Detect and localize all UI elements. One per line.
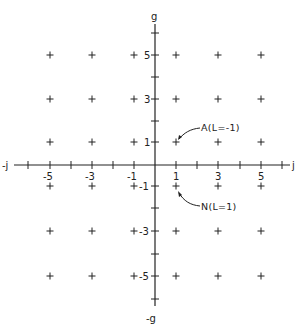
g-tick-label: -3 xyxy=(139,226,149,237)
lattice-point-plus-icon xyxy=(258,52,265,59)
lattice-point-plus-icon xyxy=(47,183,54,190)
lattice-point-plus-icon xyxy=(173,273,180,280)
lattice-point-plus-icon xyxy=(258,273,265,280)
lattice-point-plus-icon xyxy=(47,52,54,59)
lattice-point-plus-icon xyxy=(131,52,138,59)
lattice-point-plus-icon xyxy=(89,183,96,190)
lattice-point-plus-icon xyxy=(89,52,96,59)
j-tick-label: 5 xyxy=(258,171,264,182)
lattice-diagram: j -j g -g -5 -3 -1 1 3 5 5 3 1 -1 -3 -5 … xyxy=(0,0,304,328)
arrow-icon xyxy=(179,128,200,139)
j-tick-labels: -5 -3 -1 1 3 5 xyxy=(43,171,264,182)
lattice-point-plus-icon xyxy=(215,139,222,146)
lattice-point-plus-icon xyxy=(173,228,180,235)
g-tick-label: 1 xyxy=(144,137,150,148)
neg-g-axis-label: -g xyxy=(146,313,156,324)
j-tick-label: 3 xyxy=(215,171,221,182)
annotation-n: N(L=1) xyxy=(178,191,237,212)
j-tick-label: -1 xyxy=(127,171,137,182)
annotation-a-label: A(L=-1) xyxy=(201,122,240,133)
lattice-point-plus-icon xyxy=(173,52,180,59)
lattice-point-plus-icon xyxy=(131,183,138,190)
lattice-point-plus-icon xyxy=(215,96,222,103)
g-tick-label: -1 xyxy=(139,181,149,192)
lattice-point-plus-icon xyxy=(89,273,96,280)
j-tick-label: 1 xyxy=(173,171,179,182)
neg-j-axis-label: -j xyxy=(2,160,8,171)
lattice-point-plus-icon xyxy=(131,273,138,280)
lattice-point-plus-icon xyxy=(47,96,54,103)
lattice-point-plus-icon xyxy=(89,228,96,235)
lattice-point-plus-icon xyxy=(258,96,265,103)
lattice-point-plus-icon xyxy=(47,228,54,235)
lattice-point-plus-icon xyxy=(47,139,54,146)
lattice-point-plus-icon xyxy=(258,183,265,190)
j-tick-label: -3 xyxy=(85,171,95,182)
lattice-point-plus-icon xyxy=(215,183,222,190)
g-tick-label: -5 xyxy=(139,271,149,282)
lattice-point-plus-icon xyxy=(215,52,222,59)
lattice-point-plus-icon xyxy=(131,139,138,146)
lattice-point-plus-icon xyxy=(131,96,138,103)
lattice-point-plus-icon xyxy=(258,139,265,146)
lattice-point-plus-icon xyxy=(215,273,222,280)
lattice-point-plus-icon xyxy=(173,96,180,103)
annotation-a: A(L=-1) xyxy=(178,122,240,140)
j-tick-label: -5 xyxy=(43,171,53,182)
g-tick-labels: 5 3 1 -1 -3 -5 xyxy=(139,50,150,282)
g-axis-label: g xyxy=(151,11,157,22)
lattice-point-plus-icon xyxy=(173,183,180,190)
lattice-point-plus-icon xyxy=(215,228,222,235)
lattice-point-plus-icon xyxy=(89,139,96,146)
lattice-point-plus-icon xyxy=(258,228,265,235)
lattice-point-plus-icon xyxy=(89,96,96,103)
lattice-point-plus-icon xyxy=(131,228,138,235)
g-tick-label: 3 xyxy=(144,94,150,105)
j-axis-label: j xyxy=(291,160,295,171)
lattice-point-plus-icon xyxy=(47,273,54,280)
g-tick-label: 5 xyxy=(144,50,150,61)
arrow-icon xyxy=(179,193,200,206)
annotation-n-label: N(L=1) xyxy=(201,201,237,212)
